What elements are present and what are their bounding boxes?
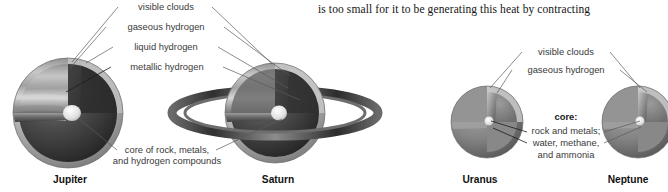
label-core-rock-metals-line2: and hydrogen compounds (103, 156, 231, 167)
label-core-heading: core: (529, 112, 603, 123)
planet-neptune-cutaway (602, 86, 668, 158)
planet-name-uranus: Uranus (440, 174, 520, 185)
planet-name-saturn: Saturn (238, 174, 318, 185)
label-gaseous-hydrogen-right: gaseous hydrogen (513, 65, 619, 76)
planet-name-neptune: Neptune (588, 174, 668, 185)
label-liquid-hydrogen: liquid hydrogen (116, 42, 216, 53)
label-core-and-ammonia: and ammonia (527, 150, 605, 161)
label-core-water-methane: water, methane, (521, 138, 611, 149)
planet-uranus-cutaway (451, 86, 523, 158)
label-gaseous-hydrogen: gaseous hydrogen (110, 22, 222, 33)
planet-jupiter-cutaway (13, 58, 123, 168)
label-core-rock-metals-line1: core of rock, metals, (117, 145, 217, 156)
label-core-rock-and-metals: rock and metals; (524, 126, 608, 137)
label-visible-clouds: visible clouds (121, 2, 211, 13)
label-metallic-hydrogen: metallic hydrogen (113, 62, 221, 73)
label-visible-clouds-right: visible clouds (524, 47, 608, 58)
planet-name-jupiter: Jupiter (30, 174, 110, 185)
